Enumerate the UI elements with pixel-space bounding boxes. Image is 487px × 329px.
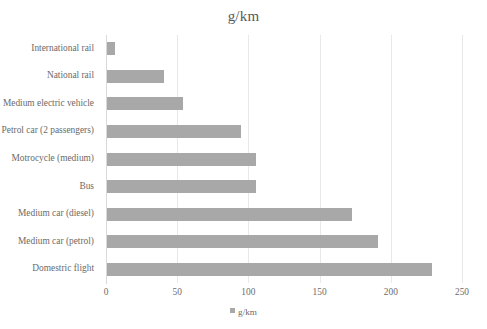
bar bbox=[106, 180, 256, 193]
bar bbox=[106, 125, 241, 138]
chart-legend: g/km bbox=[0, 306, 487, 317]
value-axis-labels: 050100150200250 bbox=[0, 287, 487, 301]
legend-label: g/km bbox=[238, 307, 257, 317]
bar bbox=[106, 97, 183, 110]
value-tick-label: 100 bbox=[241, 287, 255, 297]
category-label: Medium electric vehicle bbox=[3, 98, 94, 108]
value-tick-label: 250 bbox=[455, 287, 469, 297]
category-label: International rail bbox=[31, 43, 94, 53]
category-label: National rail bbox=[47, 70, 94, 80]
value-tick-label: 200 bbox=[384, 287, 398, 297]
bar bbox=[106, 153, 256, 166]
legend-swatch-icon bbox=[230, 308, 235, 313]
category-label: Petrol car (2 passengers) bbox=[2, 125, 94, 135]
gridline bbox=[462, 35, 463, 283]
category-label: Medium car (diesel) bbox=[18, 208, 94, 218]
category-label: Motrocycle (medium) bbox=[11, 153, 94, 163]
value-tick-label: 50 bbox=[173, 287, 182, 297]
bar bbox=[106, 263, 432, 276]
category-label: Medium car (petrol) bbox=[18, 236, 94, 246]
bar-chart: g/km International railNational railMedi… bbox=[0, 0, 487, 329]
category-label: Bus bbox=[79, 181, 94, 191]
value-tick-label: 150 bbox=[313, 287, 327, 297]
bar bbox=[106, 70, 164, 83]
gridline bbox=[391, 35, 392, 283]
plot-area bbox=[106, 35, 462, 283]
value-axis-line bbox=[106, 35, 107, 284]
category-label: Domestric flight bbox=[32, 263, 94, 273]
value-tick-label: 0 bbox=[104, 287, 109, 297]
chart-title: g/km bbox=[0, 8, 487, 25]
bar bbox=[106, 235, 378, 248]
category-axis-labels: International railNational railMedium el… bbox=[0, 35, 100, 283]
bar bbox=[106, 42, 115, 55]
bar bbox=[106, 208, 352, 221]
